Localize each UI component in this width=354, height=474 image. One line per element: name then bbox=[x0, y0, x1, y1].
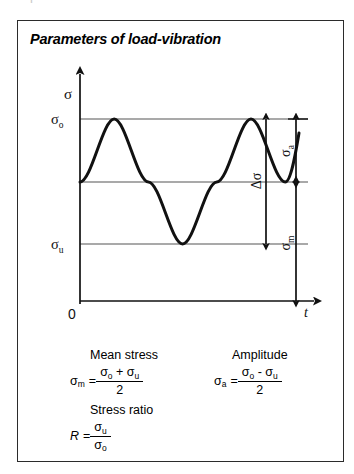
sigma-m-label: σm bbox=[278, 235, 296, 251]
stress-ratio-fraction: σu σo bbox=[90, 420, 110, 452]
amplitude-denominator: 2 bbox=[252, 382, 267, 397]
amplitude-equation: σa = σo - σu 2 bbox=[214, 365, 288, 397]
stress-ratio-denominator: σo bbox=[90, 437, 110, 452]
mean-stress-denominator: 2 bbox=[112, 382, 127, 397]
stress-ratio-equation: R = σu σo bbox=[70, 420, 153, 452]
mean-stress-caption: Mean stress bbox=[90, 348, 158, 362]
top-remnant-text: parameters of stress bbox=[30, 0, 149, 3]
mean-stress-equation: σm = σo + σu 2 bbox=[70, 365, 158, 397]
amplitude-caption: Amplitude bbox=[232, 348, 288, 362]
stress-ratio-formula: Stress ratio R = σu σo bbox=[70, 403, 153, 452]
figure-panel: Parameters of load-vibration bbox=[17, 20, 344, 462]
stress-time-chart: σ σo σu 0 t Δσ σa σm bbox=[18, 21, 345, 463]
amplitude-lhs: σa bbox=[214, 374, 226, 388]
sigma-a-subscript: a bbox=[286, 144, 296, 149]
y-tick-label-sigma-o: σo bbox=[51, 111, 64, 130]
mean-stress-formula: Mean stress σm = σo + σu 2 bbox=[70, 348, 158, 397]
mean-stress-numerator: σo + σu bbox=[96, 365, 143, 381]
amplitude-fraction: σo - σu 2 bbox=[238, 365, 282, 397]
sigma-m-subscript: m bbox=[286, 235, 296, 243]
amplitude-equals: = bbox=[230, 374, 237, 388]
sigma-u-symbol: σ bbox=[51, 236, 59, 252]
origin-label: 0 bbox=[68, 306, 76, 322]
mean-stress-fraction: σo + σu 2 bbox=[96, 365, 143, 397]
mean-stress-lhs: σm bbox=[70, 374, 85, 388]
y-tick-label-sigma-u: σu bbox=[51, 236, 64, 255]
mean-stress-equals: = bbox=[89, 374, 96, 388]
x-axis-label: t bbox=[304, 305, 309, 320]
stress-ratio-numerator: σu bbox=[90, 420, 110, 436]
stress-ratio-equals: = bbox=[83, 429, 90, 443]
sigma-u-subscript: u bbox=[59, 245, 64, 255]
amplitude-formula: Amplitude σa = σo - σu 2 bbox=[214, 348, 288, 397]
amplitude-numerator: σo - σu bbox=[238, 365, 282, 381]
delta-sigma-label: Δσ bbox=[249, 172, 264, 189]
stress-ratio-caption: Stress ratio bbox=[90, 403, 153, 417]
sigma-a-label: σa bbox=[278, 144, 296, 157]
top-cutoff-remnant: parameters of stress bbox=[0, 0, 354, 12]
sigma-o-subscript: o bbox=[59, 120, 64, 130]
y-axis-label: σ bbox=[64, 86, 72, 102]
stress-ratio-lhs: R bbox=[70, 429, 79, 443]
sigma-o-symbol: σ bbox=[51, 111, 59, 127]
